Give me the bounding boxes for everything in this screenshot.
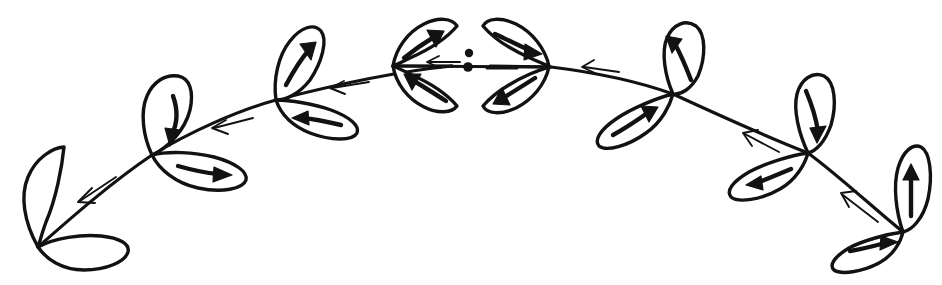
- center-dot-lower: [463, 62, 473, 72]
- leaf-l1-upper: [24, 147, 64, 247]
- leaf-l1-lower: [38, 235, 128, 270]
- stem-arrow-1: [78, 177, 116, 203]
- leaf-r1-lower: [832, 232, 903, 272]
- sketch-canvas: [0, 0, 942, 285]
- leaf-cluster-left-tip: [24, 147, 128, 270]
- center-dot-upper: [465, 49, 473, 57]
- leaf-cluster-right-tip: [832, 146, 930, 272]
- stem-segment-right-tip: [808, 153, 903, 232]
- vine-diagram: [0, 0, 942, 285]
- leaf-l2-upper: [143, 76, 191, 155]
- center-rosette: [393, 19, 549, 112]
- stem-segment-right-outer: [673, 94, 808, 153]
